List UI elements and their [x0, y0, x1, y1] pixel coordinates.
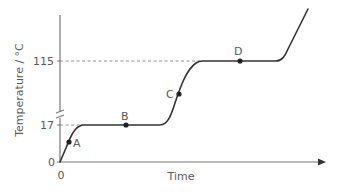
heating-curve-line [60, 9, 308, 162]
x-tick-label-0: 0 [58, 169, 65, 182]
axis-break-icon [56, 110, 64, 118]
y-tick-label-0: 0 [48, 156, 55, 169]
point-c [176, 91, 181, 96]
label-d: D [234, 45, 242, 58]
point-b [123, 122, 128, 127]
label-b: B [121, 110, 129, 123]
label-a: A [73, 137, 81, 150]
y-tick-label-115: 115 [33, 55, 54, 68]
chart-canvas: A B C D 115 17 0 0 Time Temperature / °C [0, 0, 338, 192]
y-tick-label-17: 17 [40, 119, 54, 132]
heating-curve-chart: A B C D 115 17 0 0 Time Temperature / °C [0, 0, 338, 192]
label-c: C [166, 88, 174, 101]
x-axis-title: Time [167, 170, 195, 183]
x-axis-arrow-icon [318, 159, 326, 166]
y-axis-title: Temperature / °C [13, 43, 26, 138]
point-a [66, 139, 71, 144]
point-d [237, 58, 242, 63]
